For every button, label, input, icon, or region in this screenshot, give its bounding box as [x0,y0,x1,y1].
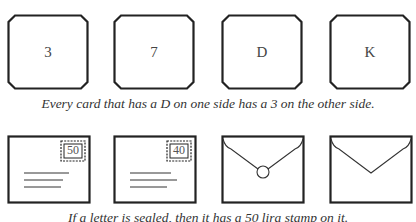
card-face: 3 [7,14,89,90]
card-face: D [221,14,303,90]
envelope-front-40[interactable]: 40 [113,135,195,203]
stamp-value: 50 [62,143,84,158]
card-d[interactable]: D [221,14,303,90]
stamp-value: 40 [168,143,190,158]
card-3[interactable]: 3 [7,14,89,90]
envelope-open-icon [329,135,413,205]
envelope-front-50[interactable]: 50 [7,135,89,203]
seal-icon [257,166,269,178]
card-face: 7 [113,14,195,90]
envelope-sealed-icon [221,135,305,205]
envelope-back-unsealed[interactable] [329,135,411,203]
card-k[interactable]: K [329,14,411,90]
rule-caption-envelopes: If a letter is sealed, then it has a 50 … [0,210,416,222]
envelope-back-sealed[interactable] [221,135,303,203]
rule-caption-cards: Every card that has a D on one side has … [0,96,416,112]
card-7[interactable]: 7 [113,14,195,90]
card-face: K [329,14,411,90]
